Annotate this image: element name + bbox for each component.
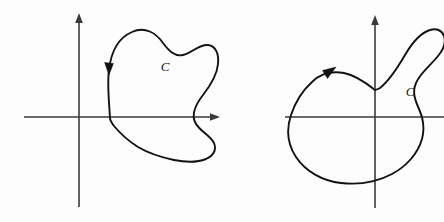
right-curve-label: C	[406, 84, 415, 99]
left-curve-label: C	[161, 59, 170, 74]
right-y-axis-arrowhead-icon	[371, 15, 379, 25]
right-closed-curve	[288, 29, 444, 183]
panel-left: C	[0, 0, 222, 222]
left-closed-curve	[108, 30, 218, 162]
left-x-axis-arrowhead-icon	[210, 113, 220, 121]
left-direction-arrow-icon	[105, 63, 114, 76]
left-diagram-canvas: C	[0, 0, 222, 222]
right-diagram-canvas: C	[222, 0, 444, 222]
figure-root: C C	[0, 0, 444, 222]
panel-right: C	[222, 0, 444, 222]
left-y-axis-arrowhead-icon	[75, 13, 83, 23]
